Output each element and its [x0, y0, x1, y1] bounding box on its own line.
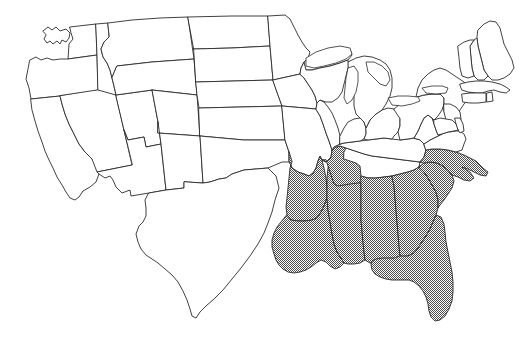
state-sd[interactable]: South Dakota [194, 46, 273, 82]
state-ma[interactable]: Massachusetts [460, 81, 510, 93]
us-map-svg: WashingtonOregonCaliforniaIdahoNevadaUta… [0, 0, 528, 348]
state-ct[interactable]: Connecticut [462, 93, 486, 103]
us-map-container: WashingtonOregonCaliforniaIdahoNevadaUta… [0, 0, 528, 348]
state-nd[interactable]: North Dakota [188, 16, 270, 49]
state-ri[interactable]: Rhode Island [487, 92, 493, 102]
state-wa[interactable]: Washington [43, 24, 97, 59]
state-ks[interactable]: Kansas [199, 106, 285, 140]
state-in[interactable]: Indiana [340, 118, 366, 144]
state-ne[interactable]: Nebraska [196, 80, 282, 108]
states-layer: WashingtonOregonCaliforniaIdahoNevadaUta… [26, 15, 514, 321]
lake-ontario: Lake Ontario [422, 86, 448, 94]
